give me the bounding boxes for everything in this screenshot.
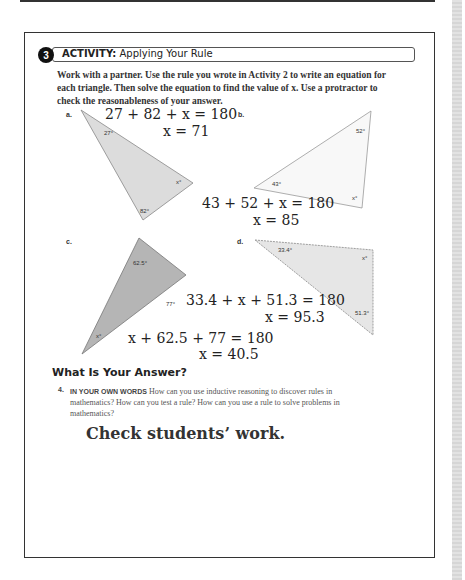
equation-b: 43 + 52 + x = 180 [202,195,334,211]
equation-a: 27 + 82 + x = 180 [105,106,237,122]
question-number: 4. [58,386,64,393]
problem-label-a: a. [66,111,72,118]
problem-label-c: c. [66,238,72,245]
angle-label: x° [362,255,368,261]
angle-label: 51.3° [355,310,370,316]
equation-c: x + 62.5 + 77 = 180 [128,330,274,346]
question-4: 4. IN YOUR OWN WORDS How can you use ind… [70,386,350,419]
problem-label-d: d. [237,238,243,245]
question-keyword: IN YOUR OWN WORDS [70,388,147,395]
angle-label: 77° [166,301,176,307]
angle-label: 43° [272,181,282,187]
answer-response: Check students’ work. [86,424,285,443]
problem-label-b: b. [238,111,244,118]
solution-d: x = 95.3 [265,309,325,325]
solution-c: x = 40.5 [199,346,259,362]
angle-label: 82° [140,208,150,214]
equation-d: 33.4 + x + 51.3 = 180 [186,292,345,308]
triangle-figures: 27° 82° x° 52° 43° x° 62.5° 77° x° 33.4°… [0,0,465,580]
angle-label: 27° [104,130,114,136]
angle-label: 33.4° [278,247,293,253]
solution-a: x = 71 [163,123,209,139]
answer-heading: What Is Your Answer? [52,366,187,379]
angle-label: x° [176,179,182,185]
angle-label: 52° [356,128,366,134]
angle-label: x° [352,195,358,201]
angle-label: x° [96,333,102,339]
triangle-b [254,111,371,208]
solution-b: x = 85 [253,212,299,228]
angle-label: 62.5° [133,260,148,266]
